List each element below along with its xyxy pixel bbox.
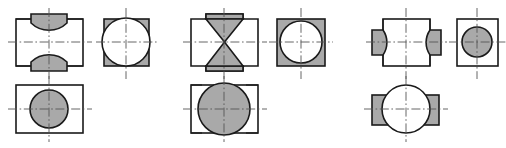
g2-top-view <box>183 76 267 142</box>
g2-front-view <box>183 8 267 79</box>
g3-front-body-rect <box>383 19 430 66</box>
g2-front-upper-triangle <box>206 19 243 42</box>
projection-group-2 <box>183 8 333 142</box>
g3-side-view <box>449 8 506 79</box>
g3-top-view <box>364 76 448 142</box>
drawing-canvas <box>0 0 506 148</box>
g3-front-view <box>366 8 447 79</box>
g1-front-view <box>8 8 92 79</box>
projection-group-1 <box>8 8 158 142</box>
g3-front-left-tab <box>372 30 387 55</box>
g2-side-view <box>269 8 333 79</box>
drawing-sheet <box>0 0 506 148</box>
g3-front-right-tab <box>426 30 441 55</box>
g2-front-lower-triangle <box>206 42 243 66</box>
g1-top-view <box>8 76 92 142</box>
projection-group-3 <box>364 8 506 142</box>
g1-side-view <box>96 8 158 79</box>
